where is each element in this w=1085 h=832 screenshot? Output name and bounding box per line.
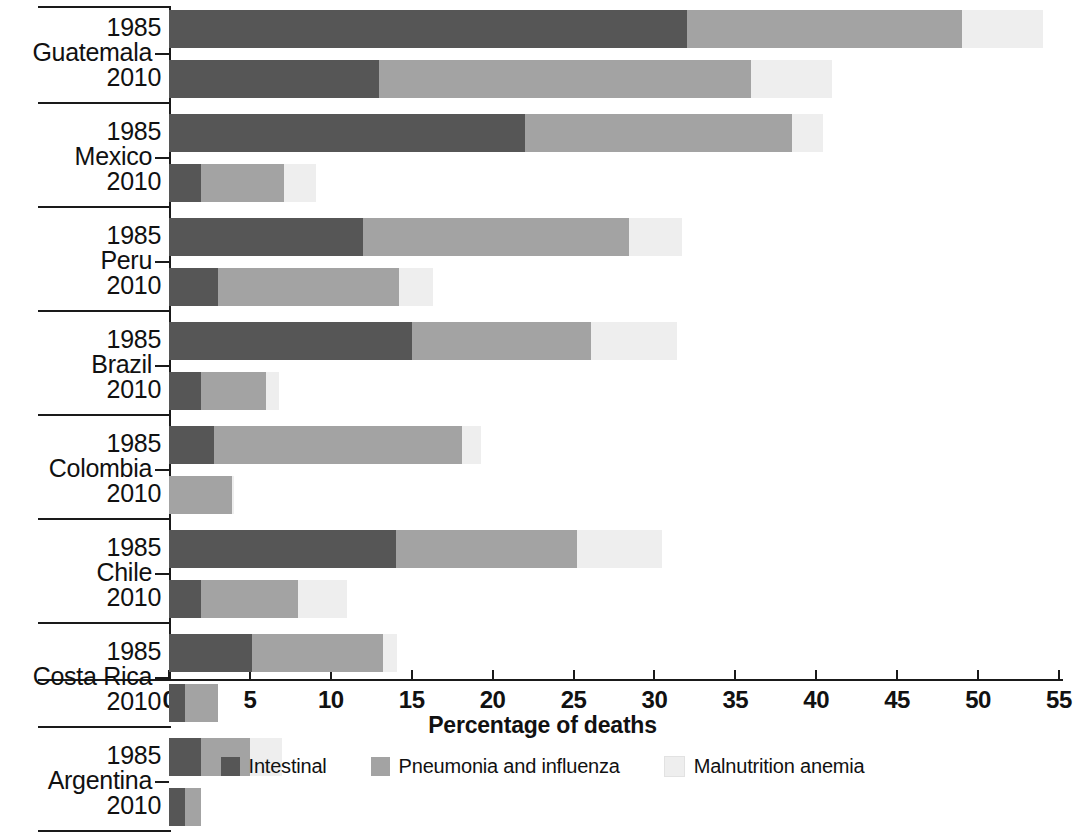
x-tick-label: 50 <box>948 686 1008 714</box>
bar-brazil-1985 <box>169 322 677 360</box>
bar-segment-intestinal <box>169 60 379 98</box>
x-tick <box>815 670 817 679</box>
bar-segment-malnutrition-anemia <box>577 530 663 568</box>
legend-label: Pneumonia and influenza <box>399 755 620 778</box>
bar-segment-malnutrition-anemia <box>629 218 682 256</box>
bar-guatemala-1985 <box>169 10 1043 48</box>
bar-segment-malnutrition-anemia <box>962 10 1043 48</box>
group-minor-tick <box>155 781 169 783</box>
legend-swatch-icon <box>221 757 240 776</box>
group-minor-tick <box>155 677 169 679</box>
group-separator <box>38 414 171 416</box>
bar-segment-malnutrition-anemia <box>383 634 398 672</box>
legend-swatch-icon <box>371 757 390 776</box>
group-separator <box>38 518 171 520</box>
bar-segment-intestinal <box>169 634 252 672</box>
bar-segment-malnutrition-anemia <box>232 476 234 514</box>
bar-segment-pneumonia-and-influenza <box>252 634 383 672</box>
x-tick-label: 5 <box>220 686 280 714</box>
bar-segment-pneumonia-and-influenza <box>201 372 266 410</box>
x-tick <box>977 670 979 679</box>
bar-segment-pneumonia-and-influenza <box>214 426 462 464</box>
x-tick <box>896 670 898 679</box>
bar-colombia-1985 <box>169 426 481 464</box>
country-label-chile: Chile <box>0 558 152 587</box>
bar-segment-malnutrition-anemia <box>792 114 823 152</box>
bar-segment-intestinal <box>169 268 218 306</box>
year-label-2010: 2010 <box>105 791 161 820</box>
bar-segment-intestinal <box>169 164 201 202</box>
bar-segment-malnutrition-anemia <box>751 60 832 98</box>
chart-legend: Intestinal Pneumonia and influenza Malnu… <box>0 755 1085 778</box>
bar-segment-pneumonia-and-influenza <box>525 114 792 152</box>
x-tick <box>573 670 575 679</box>
group-minor-tick <box>155 573 169 575</box>
bar-segment-pneumonia-and-influenza <box>218 268 399 306</box>
bar-segment-pneumonia-and-influenza <box>185 788 201 826</box>
legend-swatch-icon <box>664 756 685 777</box>
x-tick-label: 45 <box>867 686 927 714</box>
country-label-guatemala: Guatemala <box>0 38 152 67</box>
bar-mexico-2010 <box>169 164 316 202</box>
legend-label: Malnutrition anemia <box>694 755 865 778</box>
legend-item-malnutrition-anemia: Malnutrition anemia <box>664 755 865 778</box>
x-tick <box>1058 670 1060 679</box>
group-minor-tick <box>155 157 169 159</box>
group-minor-tick <box>155 469 169 471</box>
bar-segment-pneumonia-and-influenza <box>396 530 577 568</box>
bar-segment-malnutrition-anemia <box>266 372 279 410</box>
bar-segment-intestinal <box>169 372 201 410</box>
year-label-2010: 2010 <box>105 271 161 300</box>
bar-segment-malnutrition-anemia <box>399 268 433 306</box>
bar-guatemala-2010 <box>169 60 832 98</box>
x-tick-label: 40 <box>786 686 846 714</box>
legend-label: Intestinal <box>249 755 327 778</box>
x-tick-label: 15 <box>382 686 442 714</box>
bar-colombia-2010 <box>169 476 234 514</box>
x-tick-label: 55 <box>1029 686 1085 714</box>
group-minor-tick <box>155 53 169 55</box>
x-tick <box>734 670 736 679</box>
bar-segment-intestinal <box>169 114 525 152</box>
x-tick <box>411 670 413 679</box>
bar-chile-2010 <box>169 580 347 618</box>
bar-segment-intestinal <box>169 218 363 256</box>
group-separator <box>38 310 171 312</box>
legend-item-intestinal: Intestinal <box>221 755 327 778</box>
group-separator <box>38 206 171 208</box>
x-tick <box>653 670 655 679</box>
bar-peru-1985 <box>169 218 682 256</box>
year-label-2010: 2010 <box>105 167 161 196</box>
x-tick-label: 30 <box>624 686 684 714</box>
bar-segment-intestinal <box>169 10 687 48</box>
bar-chile-1985 <box>169 530 662 568</box>
year-label-2010: 2010 <box>105 583 161 612</box>
bar-peru-2010 <box>169 268 433 306</box>
group-separator <box>38 102 171 104</box>
country-label-colombia: Colombia <box>0 454 152 483</box>
legend-item-pneumonia-and-influenza: Pneumonia and influenza <box>371 755 620 778</box>
year-label-2010: 2010 <box>105 375 161 404</box>
bar-segment-pneumonia-and-influenza <box>687 10 962 48</box>
bar-segment-intestinal <box>169 322 412 360</box>
bar-segment-malnutrition-anemia <box>298 580 347 618</box>
bar-segment-pneumonia-and-influenza <box>201 164 284 202</box>
bar-segment-intestinal <box>169 426 214 464</box>
x-tick-label: 10 <box>301 686 361 714</box>
country-label-brazil: Brazil <box>0 350 152 379</box>
bar-segment-pneumonia-and-influenza <box>201 580 298 618</box>
bar-segment-pneumonia-and-influenza <box>412 322 592 360</box>
bar-brazil-2010 <box>169 372 279 410</box>
country-label-costa-rica: Costa Rica <box>0 662 152 691</box>
group-separator <box>38 6 171 8</box>
year-label-2010: 2010 <box>105 63 161 92</box>
bar-segment-malnutrition-anemia <box>462 426 481 464</box>
bar-segment-intestinal <box>169 530 396 568</box>
group-separator <box>38 622 171 624</box>
x-tick <box>492 670 494 679</box>
x-tick-label: 35 <box>705 686 765 714</box>
bar-segment-malnutrition-anemia <box>284 164 316 202</box>
x-axis-line <box>38 679 1063 681</box>
